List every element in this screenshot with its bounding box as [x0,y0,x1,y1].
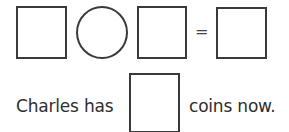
sentence-prefix: Charles has [16,96,113,116]
answer-box[interactable] [129,73,180,132]
operand-2-box[interactable] [137,6,187,59]
result-box[interactable] [216,7,267,59]
equals-sign: = [195,24,208,40]
operator-circle[interactable] [76,6,128,59]
operand-1-box[interactable] [16,6,67,59]
sentence-suffix: coins now. [189,96,275,116]
